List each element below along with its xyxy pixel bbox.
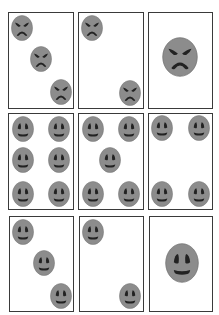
happy-face-icon (48, 116, 70, 142)
angry-face-icon (119, 80, 141, 106)
happy-face-icon (12, 147, 34, 173)
happy-face-icon (12, 219, 34, 245)
angry-face-icon (30, 46, 52, 72)
happy-face-icon (33, 250, 55, 276)
happy-face-icon (48, 147, 70, 173)
happy-face-icon (151, 115, 173, 141)
emotion-face-card-grid (0, 0, 219, 315)
happy-face-icon (82, 219, 104, 245)
angry-face-icon (50, 79, 72, 105)
happy-face-icon (82, 116, 104, 142)
happy-face-icon (82, 181, 104, 207)
happy-face-icon (50, 283, 72, 309)
happy-face-icon (165, 243, 199, 283)
happy-face-icon (118, 181, 140, 207)
happy-face-icon (188, 181, 210, 207)
happy-face-icon (48, 181, 70, 207)
angry-face-icon (81, 15, 103, 41)
happy-face-icon (188, 115, 210, 141)
angry-face-icon (162, 37, 198, 77)
happy-face-icon (151, 181, 173, 207)
happy-face-icon (119, 283, 141, 309)
happy-face-icon (118, 116, 140, 142)
angry-face-icon (11, 15, 33, 41)
happy-face-icon (12, 181, 34, 207)
happy-face-icon (12, 116, 34, 142)
happy-face-icon (99, 147, 121, 173)
